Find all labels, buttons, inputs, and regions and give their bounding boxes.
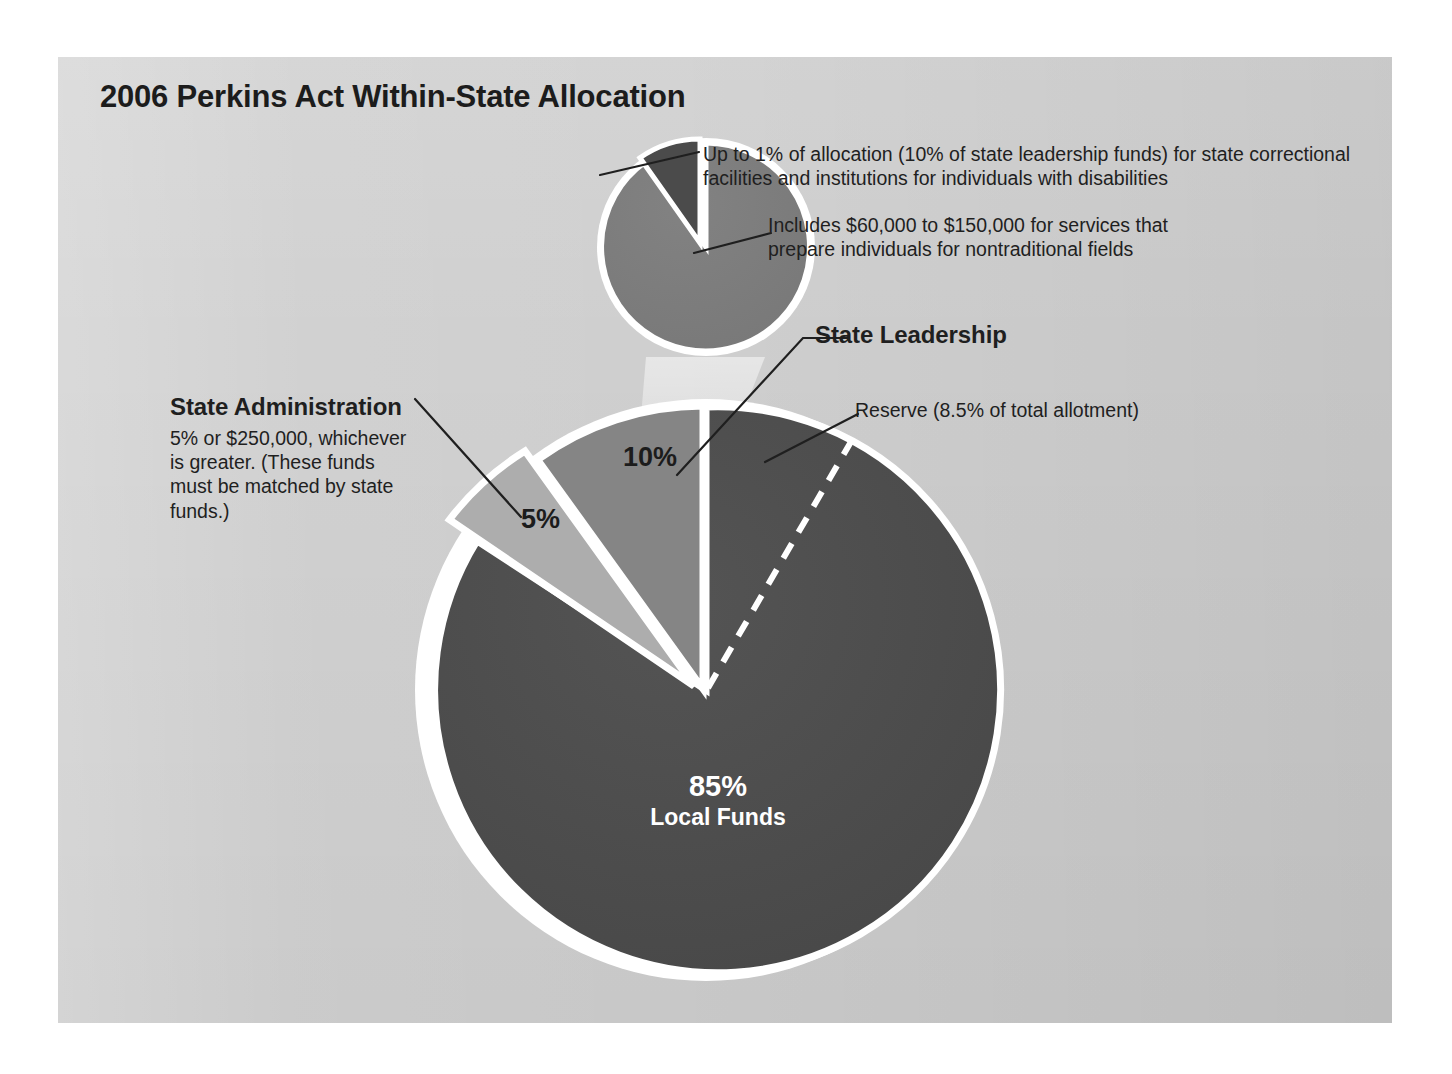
- annotation-reserve: Reserve (8.5% of total allotment): [855, 398, 1139, 422]
- slice-value-label-local-funds-percent: 85%: [689, 770, 747, 802]
- slice-value-label-state-leadership: 10%: [623, 442, 677, 473]
- annotation-state-leadership-heading: State Leadership: [815, 320, 1007, 350]
- slice-value-label-local-funds: 85% Local Funds: [648, 770, 788, 831]
- annotation-state-administration-body: 5% or $250,000, whichever is greater. (T…: [170, 426, 413, 523]
- annotation-state-administration-heading: State Administration: [170, 392, 402, 422]
- figure-page: 2006 Perkins Act Within-State Allocation: [0, 0, 1452, 1074]
- slice-value-label-local-funds-name: Local Funds: [648, 804, 788, 831]
- allocation-pie-diagram: [58, 57, 1392, 1023]
- annotation-correctional-funds: Up to 1% of allocation (10% of state lea…: [703, 142, 1368, 190]
- within-state-allocation-pie: [415, 399, 1001, 981]
- annotation-nontraditional-fields: Includes $60,000 to $150,000 for service…: [768, 213, 1198, 261]
- slice-value-label-state-administration: 5%: [521, 504, 560, 535]
- figure-card: 2006 Perkins Act Within-State Allocation: [58, 57, 1392, 1023]
